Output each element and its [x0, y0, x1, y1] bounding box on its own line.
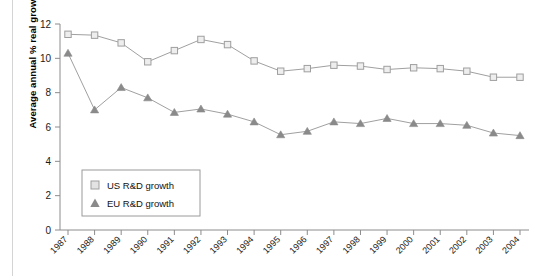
data-point-marker — [197, 105, 205, 112]
x-tick-label: 1989 — [101, 234, 122, 255]
series-line — [68, 34, 520, 77]
data-point-marker — [357, 63, 363, 69]
series-eu — [64, 49, 524, 138]
y-tick-mark-group — [55, 24, 60, 230]
x-tick-mark-group — [68, 230, 520, 235]
y-tick-label: 12 — [40, 19, 52, 30]
y-tick-label-group: 024681012 — [40, 19, 52, 236]
data-point-marker — [331, 62, 337, 68]
x-tick-label: 1997 — [314, 234, 335, 255]
legend-marker-us-square-icon — [91, 181, 99, 189]
y-tick-label: 10 — [40, 53, 52, 64]
x-tick-label: 2004 — [500, 234, 521, 255]
data-point-marker — [383, 115, 391, 122]
x-tick-label: 1994 — [234, 234, 255, 255]
x-tick-label: 1988 — [75, 234, 96, 255]
data-point-marker — [251, 58, 257, 64]
data-point-marker — [118, 40, 124, 46]
series-us — [65, 31, 523, 80]
data-point-marker — [65, 31, 71, 37]
plot-area: 024681012 198719881989199019911992199319… — [0, 0, 533, 276]
data-point-marker — [410, 65, 416, 71]
data-point-marker — [171, 47, 177, 53]
data-point-marker — [224, 41, 230, 47]
data-point-marker — [517, 74, 523, 80]
y-tick-label: 6 — [45, 122, 51, 133]
chart-figure: Average annual % real growth 024681012 1… — [0, 0, 533, 276]
data-point-marker — [384, 66, 390, 72]
data-point-marker — [464, 68, 470, 74]
y-tick-label: 0 — [45, 225, 51, 236]
data-point-marker — [117, 84, 125, 91]
x-tick-label: 1995 — [261, 234, 282, 255]
data-point-marker — [330, 118, 338, 125]
x-tick-label: 2003 — [474, 234, 495, 255]
x-tick-label: 1987 — [48, 234, 69, 255]
legend-label: US R&D growth — [107, 180, 174, 191]
data-point-marker — [144, 94, 152, 101]
y-tick-label: 2 — [45, 190, 51, 201]
x-tick-label: 1991 — [155, 234, 176, 255]
x-tick-label-group: 1987198819891990199119921993199419951996… — [48, 234, 521, 255]
legend-box — [82, 170, 200, 216]
x-tick-label: 1993 — [208, 234, 229, 255]
x-tick-label: 1998 — [341, 234, 362, 255]
data-point-marker — [304, 65, 310, 71]
x-tick-label: 1996 — [287, 234, 308, 255]
data-point-marker — [91, 32, 97, 38]
series-line — [68, 53, 520, 135]
x-tick-label: 1992 — [181, 234, 202, 255]
legend-marker-eu-triangle-icon — [90, 198, 99, 207]
x-tick-label: 2002 — [447, 234, 468, 255]
y-tick-label: 8 — [45, 87, 51, 98]
chart-legend: US R&D growthEU R&D growth — [82, 170, 200, 216]
x-tick-label: 1990 — [128, 234, 149, 255]
data-point-marker — [145, 59, 151, 65]
data-point-marker — [278, 68, 284, 74]
data-point-marker — [64, 49, 72, 56]
series-layer — [64, 31, 524, 139]
data-point-marker — [303, 127, 311, 134]
x-tick-label: 2000 — [394, 234, 415, 255]
data-point-marker — [437, 65, 443, 71]
data-point-marker — [198, 36, 204, 42]
data-point-marker — [490, 74, 496, 80]
y-tick-label: 4 — [45, 156, 51, 167]
x-tick-label: 2001 — [420, 234, 441, 255]
x-tick-label: 1999 — [367, 234, 388, 255]
legend-label: EU R&D growth — [107, 198, 174, 209]
